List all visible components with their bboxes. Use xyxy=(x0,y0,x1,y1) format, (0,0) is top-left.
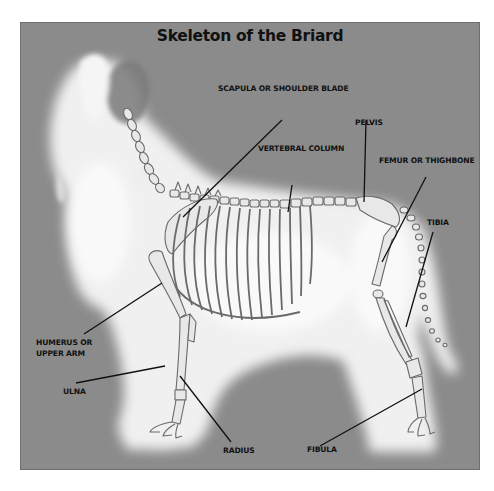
label-radius: RADIUS xyxy=(223,445,255,456)
label-femur: FEMUR OR THIGHBONE xyxy=(379,155,475,166)
label-humerus-line1: HUMERUS OR xyxy=(36,337,92,348)
label-tibia: TIBIA xyxy=(427,217,449,228)
pelvis-leader-line xyxy=(364,120,366,202)
label-pelvis: PELVIS xyxy=(355,117,383,128)
patella xyxy=(373,290,383,298)
label-fibula: FIBULA xyxy=(307,444,337,455)
label-vertebral-column: VERTEBRAL COLUMN xyxy=(258,143,344,154)
label-ulna: ULNA xyxy=(63,386,86,397)
front-carpals xyxy=(175,390,186,400)
diagram-title: Skeleton of the Briard xyxy=(20,27,480,45)
label-humerus-line2: UPPER ARM xyxy=(36,348,85,359)
label-scapula: SCAPULA OR SHOULDER BLADE xyxy=(218,83,348,94)
diagram-panel: Skeleton of the Briard SCAPULA OR SHOULD… xyxy=(20,22,480,470)
